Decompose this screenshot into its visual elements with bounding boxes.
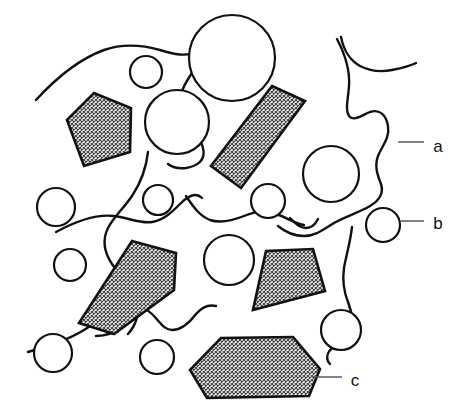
pore-bottom-left bbox=[34, 334, 72, 372]
microstructure-figure: abc bbox=[0, 0, 469, 412]
pore-center-right-small bbox=[251, 184, 285, 218]
callout-label-c: c bbox=[351, 371, 360, 390]
pore-right-large bbox=[303, 146, 359, 202]
pore-bottom-mid bbox=[140, 340, 174, 374]
particle-upper-left bbox=[67, 93, 131, 166]
callout-label-a: a bbox=[433, 137, 443, 156]
particle-bottom-center bbox=[190, 337, 320, 398]
pore-left-mid bbox=[54, 249, 86, 281]
pore-upper-mid bbox=[145, 90, 209, 154]
pore-left-upper bbox=[37, 188, 75, 226]
matrix-curve-mid-hook bbox=[290, 218, 318, 228]
pore-top-large bbox=[189, 15, 275, 101]
callout-label-b: b bbox=[433, 214, 442, 233]
figure-canvas: abc bbox=[0, 0, 469, 412]
pore-center bbox=[204, 235, 254, 285]
pore-top-small bbox=[130, 56, 162, 88]
pore-labeled-b bbox=[366, 208, 400, 242]
matrix-curve-a-boundary bbox=[278, 39, 388, 236]
matrix-curve-top-right bbox=[341, 37, 416, 71]
particle-mid-left bbox=[79, 241, 176, 334]
matrix-curve-mid-wave bbox=[186, 196, 304, 225]
pore-center-small bbox=[143, 185, 173, 215]
particle-mid-right bbox=[253, 249, 325, 310]
pore-right-lower bbox=[321, 310, 361, 350]
